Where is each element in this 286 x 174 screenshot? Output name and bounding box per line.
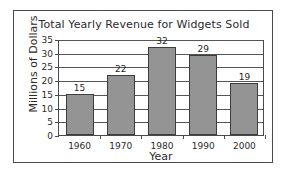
x-tick-mark — [183, 135, 184, 139]
bar[interactable] — [107, 75, 135, 135]
plot-area: 05101520253035 1522322919 19601970198019… — [58, 40, 264, 136]
x-tick-mark — [100, 135, 101, 139]
y-tick-label: 20 — [29, 76, 53, 86]
bar-slot: 15 — [59, 40, 100, 135]
bar-value-label: 15 — [74, 83, 85, 93]
x-tick-mark — [141, 135, 142, 139]
y-tick-label: 0 — [29, 131, 53, 141]
bar[interactable] — [189, 55, 217, 135]
y-tick-label: 10 — [29, 104, 53, 114]
x-axis-title: Year — [58, 150, 264, 163]
y-tick-label: 5 — [29, 117, 53, 127]
bar-value-label: 29 — [197, 44, 208, 54]
bar-value-label: 32 — [156, 36, 167, 46]
bar-slot: 22 — [100, 40, 141, 135]
x-tick-mark — [224, 135, 225, 139]
y-tick-label: 30 — [29, 49, 53, 59]
y-tick-label: 25 — [29, 62, 53, 72]
bar-slot: 29 — [183, 40, 224, 135]
bar-slot: 32 — [141, 40, 182, 135]
y-tick-mark — [55, 136, 59, 137]
bar[interactable] — [230, 83, 258, 135]
bar-value-label: 22 — [115, 64, 126, 74]
bar-slot: 19 — [224, 40, 265, 135]
chart-frame: Total Yearly Revenue for Widgets Sold Mi… — [13, 10, 273, 163]
chart-title: Total Yearly Revenue for Widgets Sold — [14, 18, 274, 31]
bar[interactable] — [148, 47, 176, 135]
y-tick-label: 15 — [29, 90, 53, 100]
y-tick-label: 35 — [29, 35, 53, 45]
x-tick-mark — [265, 135, 266, 139]
bar-value-label: 19 — [239, 72, 250, 82]
bar[interactable] — [66, 94, 94, 135]
